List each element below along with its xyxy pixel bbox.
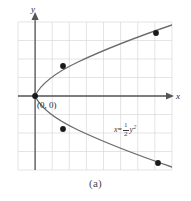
equation-exponent: 2 bbox=[133, 124, 136, 130]
data-point bbox=[60, 63, 66, 69]
equation-annotation: x=12y2 bbox=[114, 122, 136, 138]
equation-equals: = bbox=[118, 125, 123, 134]
figure-container: y x (0, 0) x=12y2 (a) bbox=[0, 0, 191, 201]
origin-annotation: (0, 0) bbox=[37, 100, 57, 110]
data-point bbox=[153, 30, 159, 36]
equation-fraction: 12 bbox=[123, 122, 129, 138]
origin-point bbox=[32, 93, 38, 99]
data-point bbox=[60, 126, 66, 132]
equation-numerator: 1 bbox=[123, 122, 129, 129]
parabola-plot bbox=[0, 0, 191, 201]
x-axis-label: x bbox=[176, 91, 180, 101]
equation-denominator: 2 bbox=[123, 131, 129, 138]
y-axis-label: y bbox=[31, 4, 35, 14]
figure-caption: (a) bbox=[0, 177, 191, 189]
data-point bbox=[155, 160, 161, 166]
